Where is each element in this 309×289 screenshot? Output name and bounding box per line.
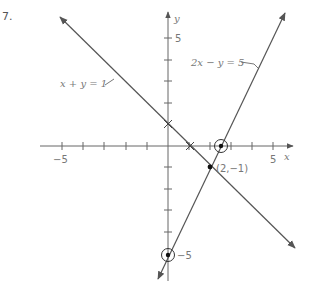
equation-label-line2: 2x − y = 5: [190, 57, 245, 68]
intersection-point: [208, 165, 213, 170]
graph: −5 5 x 5 y −5 (2,−1) x + y = 1 2x − y = …: [0, 0, 309, 289]
intersection-label: (2,−1): [216, 163, 248, 174]
line-x-plus-y-eq-1: [60, 17, 295, 248]
y-tick-label-5: 5: [175, 33, 181, 44]
x-tick-label-neg5: −5: [53, 154, 68, 165]
y-axis-label: y: [173, 13, 180, 24]
x-axis-label: x: [284, 151, 290, 162]
y-tick-label-neg5: −5: [177, 250, 192, 261]
equation-label-line1: x + y = 1: [60, 78, 107, 89]
x-tick-label-5: 5: [270, 154, 276, 165]
